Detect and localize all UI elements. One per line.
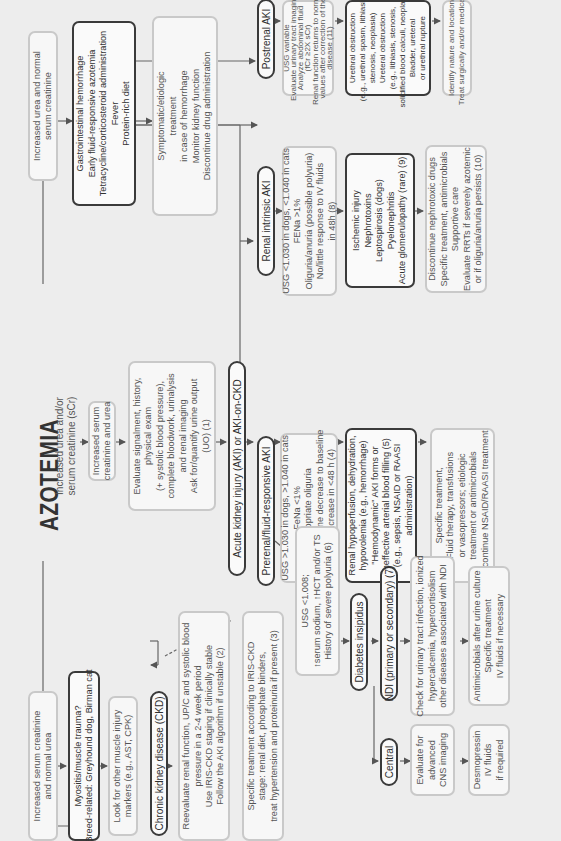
ndi-label: NDI (primary or secondary) (7) xyxy=(380,566,398,701)
urea-action-box: Symptomatic/etiologic treatment in case … xyxy=(152,16,218,216)
urea-cause-box: Gastrointestinal hemorrhage Early fluid-… xyxy=(72,21,136,206)
intrinsic-aki-label: Renal intrinsic AKI xyxy=(257,166,275,276)
intrinsic-criteria-box: USG <1.030 in dogs, <1.040 in cats FENa … xyxy=(282,146,337,296)
ndi-check-box: Check for urinary tract infection, ioniz… xyxy=(410,556,455,716)
aki-label: Acute kidney injury (AKI) or AKI-on-CKD xyxy=(228,361,246,576)
both-increased-box: Increased serum creatinine and urea xyxy=(88,401,116,481)
central-treatment-box: Desmopressin IV fluids if required xyxy=(468,724,510,796)
intrinsic-causes-box: Ischemic injury Nephrotoxins Leptospiros… xyxy=(345,153,415,288)
ckd-label: Chronic kidney disease (CKD) xyxy=(150,691,168,836)
postrenal-aki-label: Postrenal AKI xyxy=(257,0,275,79)
central-eval-box: Evaluate for advanced CNS imaging xyxy=(410,724,455,796)
muscle-start-box: Increased serum creatinine and normal ur… xyxy=(28,691,58,841)
title-subtitle: Increased urea and/or serum creatinine (… xyxy=(54,351,78,541)
evaluate-box: Evaluate signalment, history, physical e… xyxy=(128,361,216,511)
prerenal-causes-box: Renal hypoperfusion, dehydration, hypovo… xyxy=(345,428,417,583)
central-di-label: Central xyxy=(380,738,398,786)
ndi-treatment-box: Antimicrobials after urine culture Speci… xyxy=(468,566,510,706)
ckd-reevaluate-box: Reevaluate renal function, UP/C and syst… xyxy=(178,611,230,841)
polyuria-criteria-box: USG <1.008; ↑serum sodium, ↑HCT and/or T… xyxy=(295,526,340,676)
muscle-action-box: Look for other muscle injury markers (e.… xyxy=(108,696,138,836)
intrinsic-treatment-box: Discontinue nephrotoxic drugs Specific t… xyxy=(425,145,487,293)
postrenal-causes-box: Urethral obstruction (e.g., urethral spa… xyxy=(345,0,431,96)
postrenal-criteria-box: USG variable Evaluate urinary tract imag… xyxy=(282,0,334,96)
ckd-treatment-box: Specific treatment according to IRIS-CKD… xyxy=(242,611,284,841)
azotemia-flowchart: AZOTEMIA Increased urea and/or serum cre… xyxy=(0,0,561,841)
postrenal-treatment-box: Identify nature and location Treat surgi… xyxy=(442,0,472,96)
urea-start-box: Increased urea and normal serum creatini… xyxy=(28,31,58,181)
muscle-cause-box: Myositis/muscle trauma? Breed-related: G… xyxy=(68,671,100,841)
diabetes-insipidus-label: Diabetes insipidus xyxy=(350,593,368,691)
prerenal-label: Prerenal/fluid-responsive AKI xyxy=(257,436,275,586)
